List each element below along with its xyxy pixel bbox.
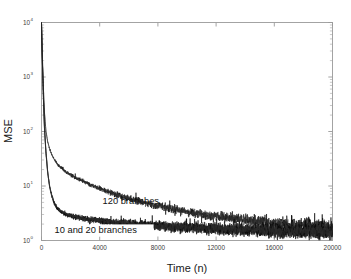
- x-tick-label: 0: [40, 244, 44, 251]
- chart-background: [0, 0, 351, 279]
- y-tick-label: 10: [23, 73, 31, 80]
- x-axis-title: Time (n): [167, 262, 208, 274]
- mse-learning-curve-figure: 100101102103104 040008000120001600020000…: [0, 0, 351, 279]
- y-axis-title: MSE: [2, 119, 14, 143]
- curve-annotation: 120 branches: [103, 196, 160, 206]
- y-tick-label: 10: [23, 237, 31, 244]
- x-tick-label: 16000: [265, 244, 283, 251]
- x-tick-label: 8000: [151, 244, 166, 251]
- x-tick-label: 12000: [207, 244, 225, 251]
- x-tick-label: 20000: [324, 244, 342, 251]
- curve-annotation: 10 and 20 branches: [55, 225, 138, 235]
- y-tick-label: 10: [23, 19, 31, 26]
- y-tick-label: 10: [23, 182, 31, 189]
- chart-canvas: 100101102103104 040008000120001600020000…: [0, 0, 351, 279]
- y-tick-label: 10: [23, 128, 31, 135]
- x-tick-label: 4000: [93, 244, 108, 251]
